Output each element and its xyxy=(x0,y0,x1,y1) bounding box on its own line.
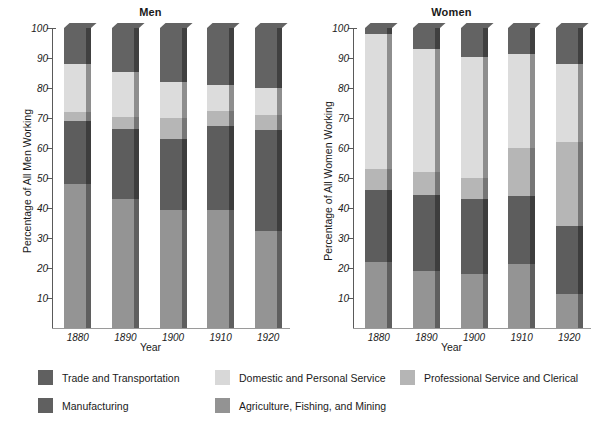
bar-segment-side xyxy=(86,121,91,184)
bar-side-face xyxy=(435,28,440,328)
bar-top-face xyxy=(112,23,145,28)
legend-swatch-icon xyxy=(215,398,230,413)
bar-segment-side xyxy=(182,82,187,118)
bar-segment-side xyxy=(435,28,440,49)
bar-segment xyxy=(112,28,134,72)
bar-segment-side xyxy=(277,130,282,231)
bar-segment xyxy=(508,148,530,196)
bar-segment xyxy=(365,169,387,190)
bar-segment xyxy=(255,115,277,130)
y-axis-tick-label: 10 xyxy=(338,293,349,304)
bar-segment-side xyxy=(134,199,139,328)
legend-label: Professional Service and Clerical xyxy=(424,372,578,384)
bar-segment xyxy=(556,28,578,64)
bar-segment-side xyxy=(134,72,139,117)
bar-front xyxy=(207,28,229,328)
bar-side-face xyxy=(229,28,234,328)
legend-item[interactable]: Domestic and Personal Service xyxy=(215,370,385,385)
bar-segment-side xyxy=(387,262,392,328)
bar-segment-side xyxy=(277,88,282,115)
y-axis-tick-label: 60 xyxy=(338,143,349,154)
legend-item[interactable]: Professional Service and Clerical xyxy=(400,370,578,385)
legend-item[interactable]: Manufacturing xyxy=(38,398,129,413)
bar-segment-side xyxy=(134,117,139,129)
bar-segment xyxy=(207,111,229,126)
bar-segment xyxy=(255,130,277,231)
bar-segment-side xyxy=(387,169,392,190)
bar-segment-side xyxy=(530,148,535,196)
bar-segment-side xyxy=(578,226,583,294)
bar-segment xyxy=(207,85,229,111)
legend-swatch-icon xyxy=(38,398,53,413)
bar-top-face xyxy=(64,23,97,28)
y-axis-tick-label: 30 xyxy=(338,233,349,244)
bar-top-face xyxy=(508,23,541,28)
x-axis-label-men: Year xyxy=(0,341,301,353)
y-axis-tick-label: 30 xyxy=(37,233,48,244)
bar-front xyxy=(365,28,387,328)
bar-segment xyxy=(64,121,86,184)
legend-item[interactable]: Trade and Transportation xyxy=(38,370,180,385)
bar-segment-side xyxy=(229,85,234,111)
bar-top-face xyxy=(207,23,240,28)
bar-side-face xyxy=(483,28,488,328)
plot-area-men: 1020304050607080901001880189019001910192… xyxy=(52,28,290,328)
bar-1900 xyxy=(461,28,487,328)
bar-segment xyxy=(556,226,578,294)
y-axis-tick-label: 70 xyxy=(338,113,349,124)
chart-legend: Trade and TransportationDomestic and Per… xyxy=(0,368,602,438)
x-axis-label-women: Year xyxy=(301,341,602,353)
bar-segment xyxy=(112,129,134,200)
bar-side-face xyxy=(277,28,282,328)
y-axis-tick-label: 100 xyxy=(332,23,349,34)
bar-top-face xyxy=(255,23,288,28)
bar-segment xyxy=(413,172,435,195)
bar-segment-side xyxy=(530,264,535,329)
bar-top-face xyxy=(413,23,446,28)
y-axis-tick-label: 10 xyxy=(37,293,48,304)
legend-label: Trade and Transportation xyxy=(62,372,180,384)
y-axis-line xyxy=(353,28,354,328)
y-axis-tick-label: 80 xyxy=(338,83,349,94)
bar-1890 xyxy=(112,28,138,328)
legend-swatch-icon xyxy=(38,370,53,385)
bar-segment xyxy=(112,199,134,328)
bar-segment xyxy=(365,190,387,262)
bar-side-face xyxy=(578,28,583,328)
bar-segment xyxy=(556,142,578,226)
bar-segment-side xyxy=(134,129,139,200)
bar-segment-side xyxy=(578,142,583,226)
bar-segment-side xyxy=(530,54,535,149)
panel-title-men: Men xyxy=(0,6,301,18)
bar-segment xyxy=(207,28,229,85)
bar-front xyxy=(556,28,578,328)
chart-panel-men: Men Percentage of All Men Working 102030… xyxy=(0,0,301,360)
bar-segment-side xyxy=(277,28,282,88)
legend-label: Agriculture, Fishing, and Mining xyxy=(239,400,386,412)
bar-segment-side xyxy=(182,118,187,139)
bar-1880 xyxy=(64,28,90,328)
bar-segment xyxy=(160,82,182,118)
bar-segment-side xyxy=(229,28,234,85)
bar-side-face xyxy=(86,28,91,328)
bar-segment-side xyxy=(483,28,488,57)
bar-segment xyxy=(112,117,134,129)
y-axis-tick-label: 50 xyxy=(338,173,349,184)
bar-segment-side xyxy=(435,271,440,328)
bar-segment-side xyxy=(277,115,282,130)
bar-segment-side xyxy=(86,184,91,328)
legend-item[interactable]: Agriculture, Fishing, and Mining xyxy=(215,398,386,413)
bar-segment xyxy=(461,274,483,328)
y-axis-tick-label: 40 xyxy=(37,203,48,214)
x-axis-line xyxy=(52,328,290,329)
bar-segment-side xyxy=(229,210,234,329)
bar-segment xyxy=(64,184,86,328)
bar-segment xyxy=(207,210,229,329)
y-axis-tick-label: 100 xyxy=(31,23,48,34)
bar-segment xyxy=(112,72,134,117)
bar-segment xyxy=(508,196,530,264)
bar-1920 xyxy=(255,28,281,328)
bar-segment xyxy=(64,64,86,112)
y-axis-tick-label: 20 xyxy=(37,263,48,274)
bar-segment xyxy=(508,264,530,329)
